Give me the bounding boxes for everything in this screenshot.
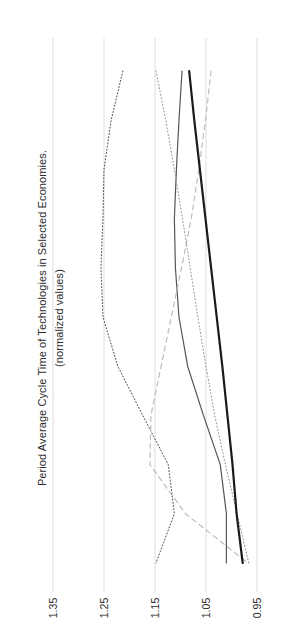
value-axis-tick-labels: 1.351.251.151.050.95 [0, 0, 289, 637]
tick-label-1.25: 1.25 [97, 586, 111, 630]
tick-label-1.15: 1.15 [148, 586, 162, 630]
tick-label-1.35: 1.35 [46, 586, 60, 630]
tick-label-1.05: 1.05 [199, 586, 213, 630]
tick-label-0.95: 0.95 [250, 586, 264, 630]
chart-container: Period Average Cycle Time of Technologie… [0, 0, 289, 637]
